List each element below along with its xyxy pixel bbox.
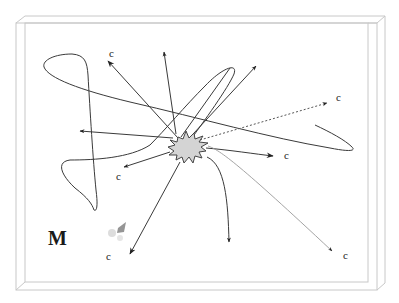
label-c-bottom-right: c (343, 249, 348, 261)
label-c-top-left: c (109, 47, 114, 59)
label-c-bottom-left: c (106, 250, 111, 262)
arrow-left (80, 131, 173, 138)
arrow-to-c-bottom-left (130, 162, 180, 254)
label-c-right-dotted: c (336, 91, 341, 103)
diagram-canvas: c c c c c c M (0, 0, 399, 303)
smudge-mark (108, 222, 126, 241)
arrows (80, 52, 332, 254)
label-c-mid-left: c (116, 170, 121, 182)
arrow-up (164, 52, 176, 134)
label-c-mid-right: c (284, 149, 289, 161)
arrow-to-c-mid-left (124, 152, 170, 167)
starburst-icon (168, 131, 208, 163)
arrow-down (207, 157, 229, 242)
arrow-to-c-mid-right (206, 148, 273, 156)
arrow-up-right (194, 66, 256, 133)
label-m: M (48, 227, 67, 249)
